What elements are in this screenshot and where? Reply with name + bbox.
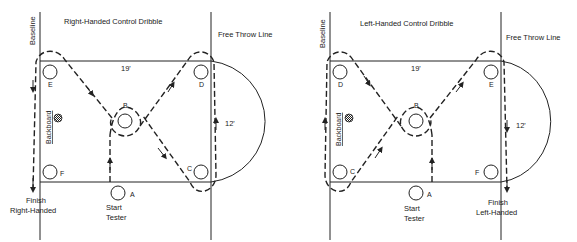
- width-label: 19': [411, 64, 421, 73]
- width-label: 19': [121, 64, 131, 73]
- left-handed-diagram: Left-Handed Control Dribble Free Throw L…: [318, 12, 560, 240]
- cone-start: [111, 186, 125, 200]
- dribble-diagrams: Right-Handed Control Dribble Free Throw …: [0, 0, 577, 242]
- cone-bottom-left: [43, 165, 57, 179]
- cone-top-left: [333, 65, 347, 79]
- cone-label: F: [475, 169, 479, 176]
- height-label: 12': [225, 119, 235, 128]
- right-handed-diagram: Right-Handed Control Dribble Free Throw …: [10, 12, 272, 240]
- cone-label: E: [489, 81, 494, 88]
- cone-label: A: [427, 191, 432, 198]
- free-throw-circle: [211, 61, 265, 182]
- baseline-label: Baseline: [28, 16, 37, 45]
- basket-icon: [345, 114, 353, 122]
- arrow-icon: [158, 148, 165, 157]
- cone-top-left: [43, 65, 57, 79]
- free-throw-label: Free Throw Line: [506, 33, 560, 42]
- cone-label: D: [199, 81, 204, 88]
- cone-start: [409, 186, 423, 200]
- tester-label: Tester: [404, 214, 425, 223]
- basket-icon: [54, 114, 62, 122]
- cone-center: [409, 114, 423, 128]
- cone-label: C: [187, 165, 192, 172]
- finish-hand-label: Right-Handed: [10, 206, 56, 215]
- cone-label: A: [130, 191, 135, 198]
- arrow-icon: [375, 149, 381, 158]
- cone-label: E: [48, 81, 53, 88]
- cone-label: D: [338, 81, 343, 88]
- height-label: 12': [516, 121, 526, 130]
- backboard-label: Backboard: [45, 110, 52, 144]
- free-throw-label: Free Throw Line: [218, 30, 272, 39]
- start-label: Start: [404, 204, 421, 213]
- cone-bottom-left: [333, 165, 347, 179]
- finish-hand-label: Left-Handed: [476, 208, 517, 217]
- cone-bottom-right: [194, 165, 208, 179]
- cone-label: C: [350, 168, 355, 175]
- tester-label: Tester: [106, 213, 127, 222]
- cone-bottom-right: [484, 165, 498, 179]
- arrow-icon: [86, 86, 92, 94]
- cone-top-right: [194, 65, 208, 79]
- cone-label: B: [123, 102, 128, 109]
- start-label: Start: [106, 203, 123, 212]
- cone-center: [118, 114, 132, 128]
- baseline-label: Baseline: [318, 19, 327, 48]
- diagram-title: Left-Handed Control Dribble: [360, 19, 453, 28]
- cone-top-right: [484, 65, 498, 79]
- finish-label: Finish: [488, 198, 508, 207]
- free-throw-circle: [501, 61, 551, 182]
- arrow-icon: [456, 84, 462, 92]
- finish-label: Finish: [26, 196, 46, 205]
- diagram-title: Right-Handed Control Dribble: [64, 17, 162, 26]
- backboard-label: Backboard: [335, 112, 342, 146]
- cone-label: B: [414, 102, 419, 109]
- cone-label: F: [60, 170, 64, 177]
